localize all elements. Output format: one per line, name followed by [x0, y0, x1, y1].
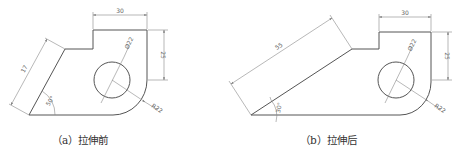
dim-angle-b: 30° — [270, 97, 283, 122]
svg-text:R22: R22 — [151, 102, 165, 115]
caption-figure-a: （a）拉伸前 — [52, 132, 108, 147]
dim-fillet-radius-b: R22 — [396, 80, 447, 114]
dim-top-width-b: 30 — [379, 9, 431, 31]
caption-figure-b: （b）拉伸后 — [300, 132, 357, 147]
dim-top-width-a: 30 — [93, 7, 147, 29]
svg-text:30: 30 — [401, 9, 409, 16]
svg-text:30°: 30° — [274, 102, 283, 114]
svg-text:25: 25 — [160, 51, 167, 59]
dim-hole-diameter-a: Ø22 — [101, 36, 135, 103]
dim-hole-diameter-b: Ø22 — [385, 38, 418, 103]
svg-text:25: 25 — [444, 52, 451, 60]
dim-right-height-a: 25 — [148, 30, 168, 80]
dim-angle-a: 50° — [42, 91, 56, 115]
dim-slant-length-b: 55 — [229, 15, 352, 115]
svg-text:55: 55 — [274, 41, 284, 51]
svg-text:Ø22: Ø22 — [406, 38, 418, 52]
dim-right-height-b: 25 — [432, 32, 452, 80]
dim-slant-length-a: 17 — [9, 38, 65, 115]
svg-text:Ø22: Ø22 — [123, 36, 135, 50]
svg-text:30: 30 — [116, 7, 124, 14]
dim-fillet-radius-a: R22 — [112, 80, 164, 114]
svg-text:R22: R22 — [434, 102, 448, 115]
figure-a-drawing: 30 25 17 50° Ø22 — [9, 7, 168, 115]
svg-text:17: 17 — [19, 64, 29, 74]
figure-b-drawing: 30 25 55 30° Ø22 — [229, 9, 452, 122]
